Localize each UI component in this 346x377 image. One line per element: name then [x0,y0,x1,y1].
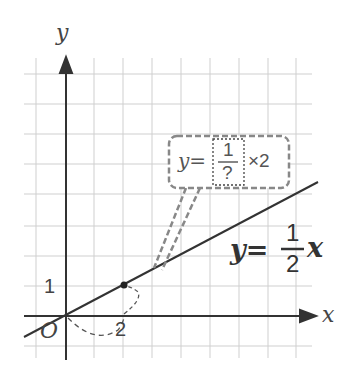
y-axis-label: y [56,20,68,45]
equation-variable: x [307,232,323,263]
origin-label: O [40,318,58,343]
y-axis-arrow-icon [60,57,72,73]
callout-numerator: 1 [223,139,234,161]
point-2-1 [121,282,128,289]
equation-lhs: y= [230,234,268,265]
callout-denominator: ? [222,162,233,184]
callout-pointer [154,188,200,270]
callout-lhs: y= [178,149,206,173]
equation-denominator: 2 [286,250,299,278]
line-y-half-x [24,182,318,337]
x-tick-label: 2 [115,318,126,341]
equation-numerator: 1 [286,219,299,247]
y-tick-label: 1 [44,275,55,298]
dashed-arc-y [124,286,139,314]
callout-multiplier: ×2 [248,150,270,172]
x-axis-arrow-icon [300,310,316,322]
x-axis-label: x [322,302,334,327]
